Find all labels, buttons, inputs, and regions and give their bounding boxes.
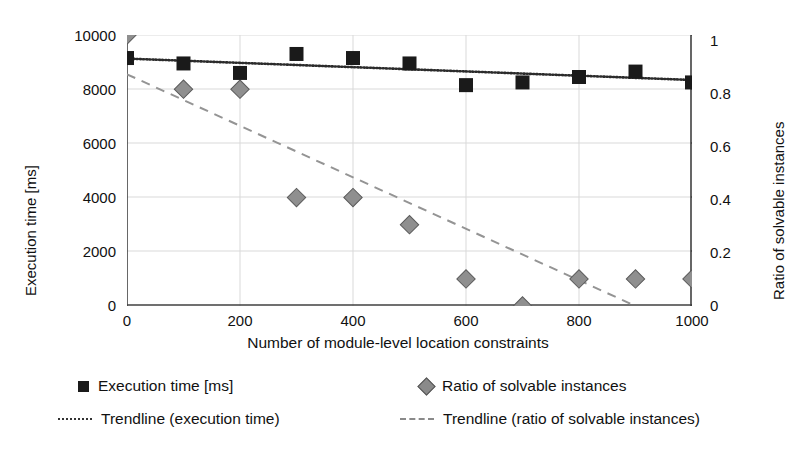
data-point-diamond [570, 270, 588, 288]
y-axis-left-tick-6000: 6000 [30, 135, 116, 152]
plot-area [127, 35, 692, 306]
legend-item-execution-time[interactable]: Execution time [ms] [78, 377, 233, 395]
y-axis-right-tick-0.8: 0.8 [710, 85, 770, 102]
y-axis-left-tick-10000: 10000 [30, 27, 116, 44]
y-axis-right-tick-0.6: 0.6 [710, 138, 770, 155]
data-point-square [685, 75, 692, 89]
trendline-ratio [127, 74, 636, 306]
data-point-diamond [683, 270, 692, 288]
legend-label: Trendline (ratio of solvable instances) [443, 410, 700, 428]
y-axis-left-title: Execution time [ms] [22, 165, 39, 296]
y-axis-left-tick-2000: 2000 [30, 243, 116, 260]
legend-label: Trendline (execution time) [101, 410, 280, 428]
data-point-square [127, 51, 134, 65]
data-point-square [346, 51, 360, 65]
data-point-diamond [457, 270, 475, 288]
data-point-diamond [127, 35, 136, 44]
chart-figure: Execution time [ms] Ratio of solvable in… [0, 0, 796, 452]
legend-label: Execution time [ms] [98, 377, 233, 395]
x-axis-tick-1000: 1000 [652, 312, 732, 329]
x-axis-title: Number of module-level location constrai… [0, 334, 796, 352]
data-point-square [572, 70, 586, 84]
x-axis-tick-0: 0 [87, 312, 167, 329]
data-point-square [177, 56, 191, 70]
data-point-diamond [344, 188, 362, 206]
data-point-diamond [231, 80, 249, 98]
y-axis-left-tick-8000: 8000 [30, 81, 116, 98]
legend-label: Ratio of solvable instances [442, 377, 626, 395]
dashed-line-icon [400, 418, 434, 420]
data-point-square [459, 78, 473, 92]
legend-item-ratio-of-solvable-instances[interactable]: Ratio of solvable instances [420, 377, 626, 395]
y-axis-right-title: Ratio of solvable instances [770, 122, 787, 300]
data-point-diamond [400, 216, 418, 234]
square-marker-icon [78, 381, 89, 392]
data-point-square [403, 56, 417, 70]
data-point-diamond [287, 188, 305, 206]
data-point-diamond [513, 297, 531, 306]
legend-item-trendline-execution-time[interactable]: Trendline (execution time) [58, 410, 280, 428]
x-axis-tick-200: 200 [200, 312, 280, 329]
data-point-square [233, 66, 247, 80]
data-point-square [629, 65, 643, 79]
x-axis-tick-400: 400 [313, 312, 393, 329]
data-point-square [290, 47, 304, 61]
series-execution-time [127, 47, 692, 92]
data-point-diamond [626, 270, 644, 288]
y-axis-right-tick-0.4: 0.4 [710, 191, 770, 208]
data-point-square [516, 75, 530, 89]
diamond-marker-icon [417, 377, 435, 395]
y-axis-right-tick-0.2: 0.2 [710, 244, 770, 261]
x-axis-tick-800: 800 [539, 312, 619, 329]
legend-item-trendline-ratio[interactable]: Trendline (ratio of solvable instances) [400, 410, 700, 428]
dotted-line-icon [58, 418, 92, 420]
y-axis-left-tick-4000: 4000 [30, 189, 116, 206]
data-point-diamond [174, 80, 192, 98]
x-axis-tick-600: 600 [426, 312, 506, 329]
y-axis-right-tick-1: 1 [710, 32, 770, 49]
